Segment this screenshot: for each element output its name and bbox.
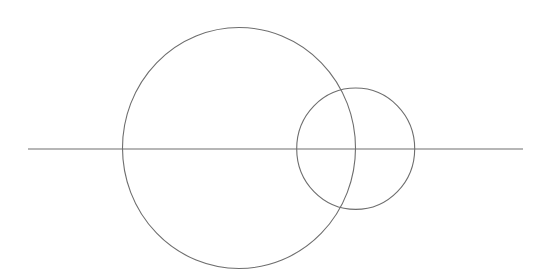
geometry-diagram xyxy=(0,0,547,279)
large-circle xyxy=(123,28,356,269)
